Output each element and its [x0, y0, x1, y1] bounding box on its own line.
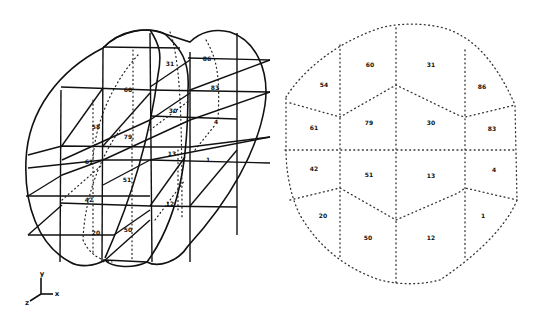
- element-label: 30: [169, 107, 177, 114]
- element-label: 12: [166, 200, 174, 207]
- element-label: 13: [427, 172, 435, 179]
- element-label: 31: [427, 61, 435, 68]
- element-label: 79: [124, 133, 132, 140]
- element-label: 86: [203, 55, 211, 62]
- element-label: 51: [123, 176, 131, 183]
- y-axis-label: y: [40, 270, 45, 278]
- z-axis-line: [30, 294, 41, 301]
- element-label: 20: [92, 229, 100, 236]
- element-label: 50: [124, 226, 132, 233]
- element-label: 42: [85, 196, 93, 203]
- axes-triad: y x z: [25, 270, 60, 307]
- element-label: 79: [365, 119, 373, 126]
- mesh-figure: 31 86 60 83 58 30 4 79 61 13 1 51 42 12 …: [0, 0, 541, 321]
- front-cylinder-outline: [26, 30, 266, 266]
- element-label: 58: [92, 123, 100, 130]
- element-label: 1: [481, 212, 485, 219]
- element-label: 12: [427, 234, 435, 241]
- x-axis-label: x: [55, 290, 60, 298]
- element-label: 1: [206, 156, 210, 163]
- element-label: 60: [124, 86, 132, 93]
- element-label: 31: [166, 60, 174, 67]
- z-axis-label: z: [25, 299, 29, 307]
- element-label: 60: [366, 61, 374, 68]
- element-label: 51: [365, 171, 373, 178]
- element-label: 61: [310, 124, 318, 131]
- element-label: 42: [310, 165, 318, 172]
- element-label: 54: [320, 81, 328, 88]
- cross-section-labels: 60 31 54 86 61 79 30 83 42 51 13 4 20 50…: [310, 61, 496, 241]
- element-label: 4: [214, 118, 218, 125]
- element-label: 30: [427, 119, 435, 126]
- element-label: 13: [168, 150, 176, 157]
- cross-section-view: [285, 24, 517, 284]
- element-label: 83: [488, 125, 496, 132]
- cross-section-outline: [286, 24, 517, 284]
- element-label: 50: [364, 234, 372, 241]
- element-label: 4: [492, 166, 496, 173]
- element-label: 83: [211, 84, 219, 91]
- element-label: 61: [85, 158, 93, 165]
- wireframe-3d-view: [26, 30, 270, 266]
- element-label: 86: [478, 83, 486, 90]
- element-label: 20: [319, 212, 327, 219]
